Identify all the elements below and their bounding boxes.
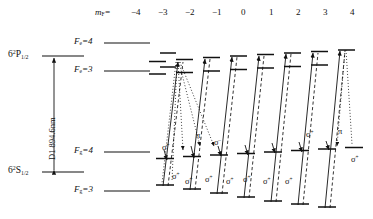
term-label-excited: 62P1/2 xyxy=(8,50,29,61)
polarization-label-p8: σ+ xyxy=(185,177,193,186)
decay-transitions-dotted xyxy=(162,50,352,183)
hf-label-Fe4: Fe=4 xyxy=(74,37,93,47)
sublevels-Fg3 xyxy=(156,185,336,207)
mf-tick-0: 0 xyxy=(241,8,246,17)
mf-tick-3: 3 xyxy=(323,8,328,17)
polarization-sign: + xyxy=(167,142,170,148)
mf-tick--4: −4 xyxy=(131,8,141,17)
polarization-sign: + xyxy=(311,129,314,135)
sublevels-Fe4 xyxy=(149,50,355,62)
level-diagram-artwork xyxy=(0,0,373,219)
polarization-sign: + xyxy=(290,176,293,182)
hf-label-Fg4: Fg=4 xyxy=(74,146,93,156)
polarization-sign: − xyxy=(219,137,222,143)
hf-label-Fg3: Fg=3 xyxy=(74,185,93,195)
polarization-sign: + xyxy=(248,174,251,180)
polarization-label-p2: π xyxy=(196,131,200,140)
polarization-sign: + xyxy=(190,176,193,182)
pump-transitions-dashed xyxy=(168,51,345,208)
sublevels-Fe3 xyxy=(149,65,328,74)
term-label-ground: 62S1/2 xyxy=(8,166,29,177)
polarization-label-p1: σ+ xyxy=(162,143,170,152)
polarization-label-p6: σ+ xyxy=(351,155,359,164)
mf-tick--1: −1 xyxy=(212,8,222,17)
polarization-glyph: π xyxy=(338,126,342,136)
mf-tick-2: 2 xyxy=(296,8,301,17)
polarization-label-p9: σ+ xyxy=(205,175,213,184)
polarization-sign: + xyxy=(210,174,213,180)
polarization-label-p11: σ+ xyxy=(243,175,251,184)
mf-tick--3: −3 xyxy=(158,8,168,17)
polarization-label-p3: σ− xyxy=(214,138,222,147)
mf-header: mF= xyxy=(95,8,111,18)
polarization-label-p13: σ+ xyxy=(285,177,293,186)
polarization-sign: + xyxy=(268,176,271,182)
polarization-sign: + xyxy=(356,154,359,160)
polarization-label-p4: σ+ xyxy=(306,130,314,139)
hf-label-Fe3: Fe=3 xyxy=(74,65,93,75)
d1-transition-label: D1 894.6nm xyxy=(48,118,57,161)
polarization-label-p10: σ+ xyxy=(226,177,234,186)
polarization-label-p7: σ+ xyxy=(172,172,180,181)
polarization-label-p5: π xyxy=(338,127,342,136)
polarization-label-p12: σ+ xyxy=(263,177,271,186)
polarization-sign: + xyxy=(231,176,234,182)
polarization-glyph: π xyxy=(196,130,200,140)
mf-tick-1: 1 xyxy=(269,8,274,17)
polarization-sign: + xyxy=(177,171,180,177)
figure-canvas: mF= −4 −3 −2 −1 0 1 2 3 4 62P1/2 62S1/2 … xyxy=(0,0,373,219)
mf-tick-4: 4 xyxy=(350,8,355,17)
mf-tick--2: −2 xyxy=(185,8,195,17)
sublevels-Fg4 xyxy=(156,148,363,159)
